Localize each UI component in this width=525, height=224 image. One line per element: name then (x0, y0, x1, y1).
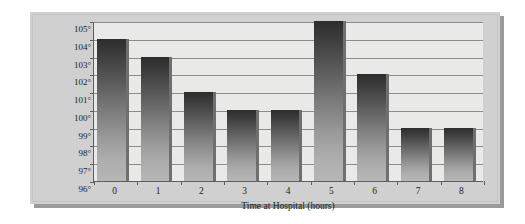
bar (227, 110, 259, 181)
bar-slot (441, 22, 484, 181)
bar-slot (354, 22, 397, 181)
x-axis-tick-mark (181, 181, 182, 185)
y-axis-tick-label: 99° (56, 131, 91, 141)
bar (184, 92, 216, 181)
x-axis-tick-mark (441, 181, 442, 185)
x-axis-tick-label: 4 (286, 186, 291, 196)
x-axis-tick-mark (397, 181, 398, 185)
y-axis-tick-mark (90, 40, 94, 41)
bar (141, 57, 173, 181)
plot-area (93, 22, 483, 182)
x-axis-tick-label: 8 (459, 186, 464, 196)
y-axis-tick-mark (90, 75, 94, 76)
bar (271, 110, 303, 181)
bar-slot (267, 22, 310, 181)
x-axis-tick-mark (224, 181, 225, 185)
bar-slot (181, 22, 224, 181)
x-axis-tick-label: 2 (199, 186, 204, 196)
bar (401, 128, 433, 181)
bar-series (94, 22, 483, 181)
bar-slot (397, 22, 440, 181)
x-axis-tick-mark (137, 181, 138, 185)
x-axis-tick-label: 5 (329, 186, 334, 196)
y-axis-tick-label: 105° (56, 24, 91, 34)
bar (444, 128, 476, 181)
y-axis-tick-mark (90, 129, 94, 130)
bar (97, 39, 129, 181)
x-axis-tick-label: 7 (416, 186, 421, 196)
y-axis-tick-mark (90, 182, 94, 183)
y-axis-tick-labels: 96°97°98°99°100°101°102°103°104°105° (56, 29, 91, 175)
y-axis-tick-label: 100° (56, 113, 91, 123)
x-axis-tick-label: 1 (156, 186, 161, 196)
bar-slot (94, 22, 137, 181)
y-axis-tick-label: 98° (56, 148, 91, 158)
y-axis-tick-label: 103° (56, 60, 91, 70)
y-axis-tick-label: 104° (56, 42, 91, 52)
y-axis-tick-mark (90, 93, 94, 94)
x-axis-tick-labels: 012345678 (93, 186, 483, 200)
y-axis-tick-mark (90, 58, 94, 59)
x-axis-tick-mark (94, 181, 95, 185)
bar-slot (137, 22, 180, 181)
bar (357, 74, 389, 181)
x-axis-tick-mark (267, 181, 268, 185)
x-axis-tick-mark (484, 181, 485, 185)
y-axis-tick-mark (90, 22, 94, 23)
y-axis-tick-mark (90, 111, 94, 112)
bar (314, 21, 346, 181)
y-axis-tick-mark (90, 146, 94, 147)
y-axis-tick-label: 96° (56, 184, 91, 194)
y-axis-tick-mark (90, 164, 94, 165)
gridline (94, 182, 483, 183)
bar-slot (311, 22, 354, 181)
x-axis-tick-mark (354, 181, 355, 185)
chart-figure: Temperature (degrees Fahrenheit) 96°97°9… (0, 0, 525, 224)
x-axis-tick-label: 6 (372, 186, 377, 196)
y-axis-tick-label: 102° (56, 77, 91, 87)
x-axis-tick-label: 3 (242, 186, 247, 196)
chart-panel: Temperature (degrees Fahrenheit) 96°97°9… (30, 12, 500, 204)
bar-slot (224, 22, 267, 181)
y-axis-tick-label: 97° (56, 166, 91, 176)
x-axis-title: Time at Hospital (hours) (93, 201, 483, 211)
x-axis-tick-mark (311, 181, 312, 185)
y-axis-tick-label: 101° (56, 95, 91, 105)
x-axis-tick-label: 0 (112, 186, 117, 196)
